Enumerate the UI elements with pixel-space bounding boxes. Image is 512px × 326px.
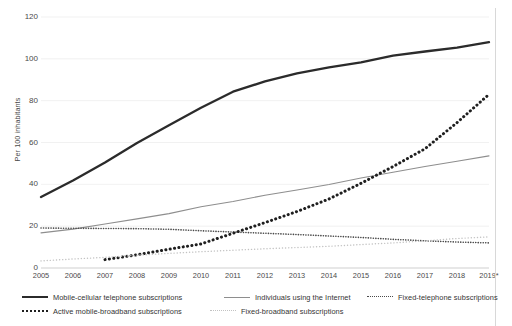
plot-canvas: [0, 0, 512, 287]
legend-label: Active mobile-broadband subscriptions: [53, 307, 182, 316]
legend-item-fixed-broadband[interactable]: Fixed-broadband subscriptions: [210, 304, 344, 318]
legend-label: Mobile-cellular telephone subscriptions: [53, 293, 182, 302]
series-line-0: [41, 42, 489, 197]
legend-label: Fixed-broadband subscriptions: [241, 307, 344, 316]
legend-swatch-solid-thin-icon: [224, 293, 250, 301]
series-line-3: [105, 94, 489, 259]
legend-item-active-mobile-broadband[interactable]: Active mobile-broadband subscriptions: [22, 304, 182, 318]
legend-label: Individuals using the Internet: [255, 293, 351, 302]
series-layer: [41, 42, 489, 261]
gridlines: [41, 17, 489, 268]
legend-row-1: Mobile-cellular telephone subscriptions …: [22, 290, 502, 304]
plot-area: Per 100 inhabitants 020406080100120 2005…: [0, 0, 512, 287]
legend-swatch-solid-bold-icon: [22, 293, 48, 301]
legend-item-fixed-telephone[interactable]: Fixed-telephone subscriptions: [367, 290, 498, 304]
plot-right-border: [495, 8, 496, 326]
legend-swatch-dotted-bold-icon: [22, 307, 48, 315]
legend-item-mobile-cellular[interactable]: Mobile-cellular telephone subscriptions: [22, 290, 182, 304]
legend-label: Fixed-telephone subscriptions: [398, 293, 498, 302]
legend-swatch-dotted-fine-icon: [367, 293, 393, 301]
chart-legend: Mobile-cellular telephone subscriptions …: [0, 288, 512, 326]
series-line-4: [41, 237, 489, 261]
legend-row-2: Active mobile-broadband subscriptions Fi…: [22, 304, 502, 318]
series-line-1: [41, 156, 489, 233]
legend-item-internet-users[interactable]: Individuals using the Internet: [224, 290, 351, 304]
legend-swatch-dotted-light-icon: [210, 307, 236, 315]
chart-root: Per 100 inhabitants 020406080100120 2005…: [0, 0, 512, 326]
